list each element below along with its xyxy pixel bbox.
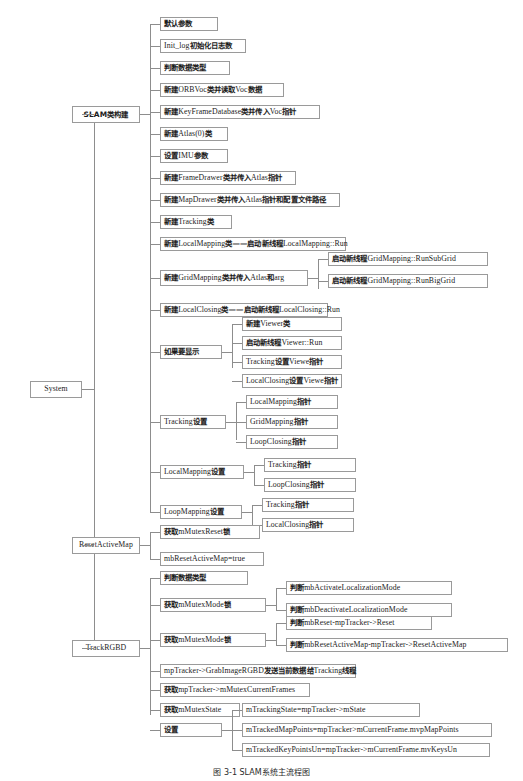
node-label: mTrackingState=mpTracker->mState: [246, 706, 366, 714]
node-label: LocalMapping指针: [250, 398, 311, 406]
connector-lm-set-child-1: [254, 485, 264, 486]
node-label: 获取mMutexState: [164, 706, 221, 714]
node-label: 新建Viewer类: [246, 320, 290, 328]
node-label: 新建MapDrawer类并传入Atlas指针和配置文件路径: [164, 196, 326, 204]
connector-mode1-out: [266, 605, 276, 606]
node-tracking-setting: Tracking设置: [160, 415, 226, 429]
node-label: 获取mMutexMode锁: [164, 601, 231, 609]
figure-caption: 图 3-1 SLAM系统主流程图: [0, 766, 523, 777]
connector-mode1-child-1: [276, 610, 286, 611]
node-label: 新建LocalClosing类——启动新线程LocalClosing::Run: [164, 306, 340, 314]
node-label: 新建KeyFrameDatabase类并传入Voc指针: [164, 108, 296, 116]
connector-slam-child-0: [150, 24, 160, 25]
connector-track-child-1: [150, 605, 160, 606]
connector-tracking-set-spine: [236, 402, 237, 440]
node-localmapping-setting: LocalMapping设置: [160, 465, 244, 479]
connector-slam-child-7: [150, 178, 160, 179]
node-label: GridMapping指针: [250, 418, 308, 426]
connector-slam-child-6: [150, 156, 160, 157]
node-label: 判断mbResetActiveMap-mpTracker->ResetActiv…: [290, 641, 467, 649]
connector-slam-child-16: [150, 512, 160, 513]
node-judge-data-type: 判断数据类型: [160, 61, 230, 75]
node-mode-lock2-1: 判断mbResetActiveMap-mpTracker->ResetActiv…: [286, 638, 508, 652]
node-label: 新建FrameDrawer类并传入Atlas指针: [164, 174, 282, 182]
node-new-orbvoc: 新建ORBVoc类并读取Voc数据: [160, 83, 284, 97]
figure-canvas: SystemSLAM类构建ResetActiveMapTrackRGBD默认参数…: [0, 0, 523, 781]
connector-slam-child-8: [150, 200, 160, 201]
connector-display-child-1: [232, 343, 242, 344]
node-label: LoopMapping设置: [164, 508, 224, 516]
connector-display-child-2: [232, 362, 242, 363]
node-if-display: 如果要显示: [160, 345, 222, 359]
node-label: Init_log初始化日志数: [164, 42, 232, 50]
connector-slam-spine: [150, 24, 151, 512]
node-default-params: 默认参数: [160, 17, 218, 31]
connector-track-out: [140, 648, 150, 649]
node-label: 新建ORBVoc类并读取Voc数据: [164, 86, 262, 94]
connector-lp-set-out: [242, 512, 252, 513]
connector-display-out: [222, 352, 232, 353]
connector-gridmapping-child-1: [318, 281, 328, 282]
connector-lm-set-child-0: [254, 465, 264, 466]
node-label: 新建GridMapping类并传入Atlas和arg: [164, 274, 284, 282]
node-tracking-setting-1: GridMapping指针: [246, 415, 338, 429]
node-label: mTrackedMapPoints=mpTracker>mCurrentFram…: [246, 726, 459, 734]
connector-system-trunk: [94, 114, 95, 648]
connector-track-child-3: [150, 671, 160, 672]
node-label: 判断mbDeactivateLocalizationMode: [290, 606, 407, 614]
node-new-framedrawer: 新建FrameDrawer类并传入Atlas指针: [160, 171, 296, 185]
connector-gridmapping-spine: [318, 259, 319, 289]
node-track-child-grab-image-rgbd: mpTracker->GrabImageRGBD发送当前数据给Tracking线…: [160, 664, 356, 678]
node-label: 获取mMutexMode锁: [164, 636, 231, 644]
connector-mode2-child-1: [276, 645, 286, 646]
node-label: 判断mbActivateLocalizationMode: [290, 584, 400, 592]
node-set-child-0: mTrackingState=mpTracker->mState: [242, 703, 420, 717]
connector-track-child-6: [150, 730, 160, 731]
node-gridmapping-sub-1: 启动新线程GridMapping::RunBigGrid: [328, 274, 488, 288]
connector-system-out: [82, 389, 94, 390]
connector-gridmapping-child-0: [318, 259, 328, 260]
node-label: LocalClosing指针: [266, 521, 323, 529]
connector-mode1-spine: [276, 588, 277, 610]
node-new-gridmapping: 新建GridMapping类并传入Atlas和arg: [160, 270, 308, 286]
connector-slam-out: [140, 114, 150, 115]
node-label: mbResetActiveMap=true: [164, 555, 245, 563]
connector-mode2-child-0: [276, 623, 286, 624]
node-gridmapping-sub-0: 启动新线程GridMapping::RunSubGrid: [328, 252, 488, 266]
connector-slam-child-14: [150, 422, 160, 423]
connector-set-child-1: [232, 730, 242, 731]
node-viewer-sub-2: Tracking设置Viewe指针: [242, 355, 342, 369]
connector-slam-child-3: [150, 90, 160, 91]
connector-slam-child-4: [150, 112, 160, 113]
node-localmapping-setting-1: LoopClosing指针: [264, 478, 356, 492]
node-new-tracking: 新建Tracking类: [160, 215, 232, 229]
node-label: LocalClosing设置Viewe指针: [246, 377, 338, 385]
connector-slam-child-9: [150, 222, 160, 223]
node-mode-lock1-1: 判断mbDeactivateLocalizationMode: [286, 603, 452, 617]
node-label: 设置IMU参数: [164, 152, 208, 160]
node-viewer-sub-0: 新建Viewer类: [242, 317, 342, 331]
node-label: Tracking设置: [164, 418, 207, 426]
node-label: 启动新线程Viewer::Run: [246, 339, 322, 347]
connector-tracking-set-out: [226, 422, 236, 423]
node-label: 启动新线程GridMapping::RunSubGrid: [332, 255, 456, 263]
node-new-localclosing: 新建LocalClosing类——启动新线程LocalClosing::Run: [160, 303, 328, 317]
node-label: System: [44, 385, 68, 393]
connector-lp-set-child-0: [252, 505, 262, 506]
connector-gridmapping-out: [308, 278, 318, 279]
node-label: 判断数据类型: [164, 574, 207, 582]
connector-lm-set-spine: [254, 465, 255, 485]
connector-slam-child-13: [150, 352, 160, 353]
node-loopmapping-setting-0: Tracking指针: [262, 498, 354, 512]
connector-display-child-3: [232, 381, 242, 382]
node-loopmapping-setting: LoopMapping设置: [160, 505, 242, 519]
connector-tracking-set-child-0: [236, 402, 246, 403]
node-label: mpTracker->GrabImageRGBD发送当前数据给Tracking线…: [164, 667, 356, 675]
node-label: 新建Tracking类: [164, 218, 214, 226]
connector-trunk-track: [82, 648, 94, 649]
connector-track-child-4: [150, 690, 160, 691]
connector-slam-child-11: [150, 278, 160, 279]
connector-lm-set-out: [244, 472, 254, 473]
connector-trunk-slam: [82, 114, 94, 115]
node-label: LoopClosing指针: [268, 481, 324, 489]
